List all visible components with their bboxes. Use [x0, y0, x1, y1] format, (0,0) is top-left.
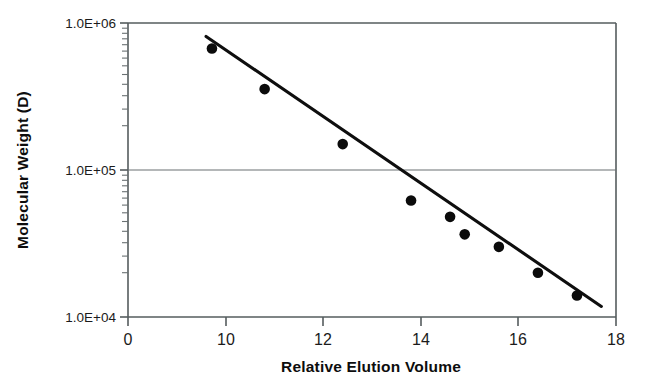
data-point: [207, 43, 218, 54]
chart-container: 1.0E+06 1.0E+05 1.0E+04 0 10 12 14 16 18…: [0, 0, 649, 386]
data-point: [459, 229, 470, 240]
x-tick-label-18: 18: [607, 331, 625, 348]
y-tick-label-1e05: 1.0E+05: [65, 163, 116, 178]
chart-background: [0, 0, 649, 386]
x-tick-label-10: 10: [217, 331, 235, 348]
data-point: [572, 290, 583, 301]
y-axis-title: Molecular Weight (D): [14, 91, 31, 249]
x-tick-label-12: 12: [314, 331, 332, 348]
data-point: [337, 139, 348, 150]
y-tick-label-1e04: 1.0E+04: [65, 310, 116, 325]
x-tick-label-16: 16: [509, 331, 527, 348]
data-point: [445, 212, 456, 223]
data-point: [406, 195, 417, 206]
y-tick-label-1e06: 1.0E+06: [65, 16, 116, 31]
x-tick-label-14: 14: [412, 331, 430, 348]
data-point: [259, 84, 270, 95]
x-axis-title: Relative Elution Volume: [281, 358, 461, 375]
data-point: [533, 267, 544, 278]
data-point: [494, 242, 505, 253]
calibration-curve-chart: 1.0E+06 1.0E+05 1.0E+04 0 10 12 14 16 18…: [0, 0, 649, 386]
x-tick-label-0: 0: [124, 331, 133, 348]
